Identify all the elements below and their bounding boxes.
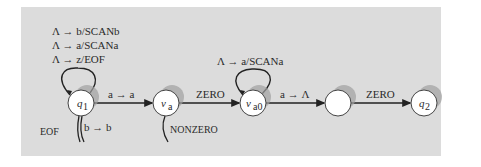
svg-text:ν: ν: [161, 97, 166, 109]
svg-text:ν: ν: [246, 97, 251, 109]
state-q2: q 2: [411, 85, 442, 116]
svg-text:a: a: [168, 101, 173, 112]
label-eof: EOF: [40, 126, 59, 137]
state-blank: [325, 85, 356, 116]
label-blank-q2: ZERO: [366, 88, 395, 100]
label-q1-va: a → a: [108, 88, 134, 100]
state-va0: ν a0: [240, 85, 271, 116]
label-va-va0: ZERO: [196, 88, 225, 100]
svg-text:a0: a0: [253, 101, 262, 112]
state-q1: q 1: [68, 85, 99, 116]
label-b-to-b: b → b: [84, 121, 112, 133]
exit-va-nonzero: [163, 116, 168, 142]
label-nonzero: NONZERO: [170, 124, 218, 135]
svg-text:1: 1: [83, 101, 88, 112]
label-va0-blank: a → Λ: [280, 88, 309, 100]
loop-label-va0-0: Λ → a/SCANa: [217, 55, 283, 67]
state-va: ν a: [153, 85, 184, 116]
state-diagram: q 1 ν a ν a0 q 2 Λ → b/SCANb Λ → a/SCANa…: [0, 0, 481, 167]
exit-q1-eof: [78, 116, 80, 142]
loop-label-q1-0: Λ → b/SCANb: [52, 25, 120, 37]
loop-label-q1-1: Λ → a/SCANa: [52, 39, 118, 51]
svg-text:2: 2: [425, 101, 430, 112]
loop-label-q1-2: Λ → z/EOF: [52, 53, 105, 65]
